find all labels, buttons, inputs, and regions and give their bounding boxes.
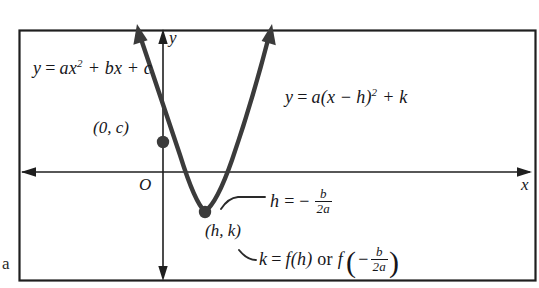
k-formula-paren-close: ) <box>389 245 399 278</box>
parabola-figure: y=ax2+ bx + c y=a(x −h)2+ k (0, c) (h, k… <box>0 0 539 288</box>
standard-form-lhs: y <box>33 58 41 78</box>
vertex-form-rhs-a: a(x − <box>312 87 353 107</box>
y-intercept-point <box>157 136 169 148</box>
k-formula-fraction: b 2a <box>371 245 388 273</box>
x-axis-label: x <box>521 176 529 193</box>
k-formula-annotation: k=f(h)orf(− b 2a ) <box>259 245 399 273</box>
k-formula-fh: f(h) <box>286 249 313 269</box>
standard-form-rhs-a: ax <box>60 58 77 78</box>
margin-mark: a <box>2 254 10 274</box>
k-formula-paren-open: ( <box>343 245 356 278</box>
standard-form-equation: y=ax2+ bx + c <box>33 58 152 77</box>
y-axis-label: y <box>169 29 177 46</box>
k-formula-or: or <box>312 249 337 269</box>
y-intercept-label: (0, c) <box>93 119 129 136</box>
k-formula-numerator: b <box>371 245 388 259</box>
vertex-label: (h, k) <box>205 222 241 239</box>
k-formula-denominator: 2a <box>371 259 388 274</box>
h-formula-equals: = − <box>279 191 313 211</box>
vertex-point <box>199 206 211 218</box>
k-formula-equals: = <box>267 249 285 269</box>
standard-form-equals: = <box>41 58 59 78</box>
vertex-form-rhs-k: + k <box>377 87 407 107</box>
k-formula-lead: k <box>259 249 267 269</box>
vertex-form-rhs-h: h) <box>352 87 371 107</box>
origin-label: O <box>139 176 151 193</box>
k-formula-minus: − <box>356 249 369 269</box>
h-formula-numerator: b <box>315 187 332 201</box>
h-formula-fraction: b 2a <box>315 187 332 215</box>
h-formula-lead: h <box>270 191 279 211</box>
vertex-form-equals: = <box>293 87 311 107</box>
h-formula-denominator: 2a <box>315 201 332 216</box>
h-formula-annotation: h= − b 2a <box>270 187 333 215</box>
vertex-form-lhs: y <box>285 87 293 107</box>
vertex-form-equation: y=a(x −h)2+ k <box>285 87 408 106</box>
standard-form-rhs-b: + bx + c <box>83 58 152 78</box>
standard-form-exponent: 2 <box>77 57 83 69</box>
